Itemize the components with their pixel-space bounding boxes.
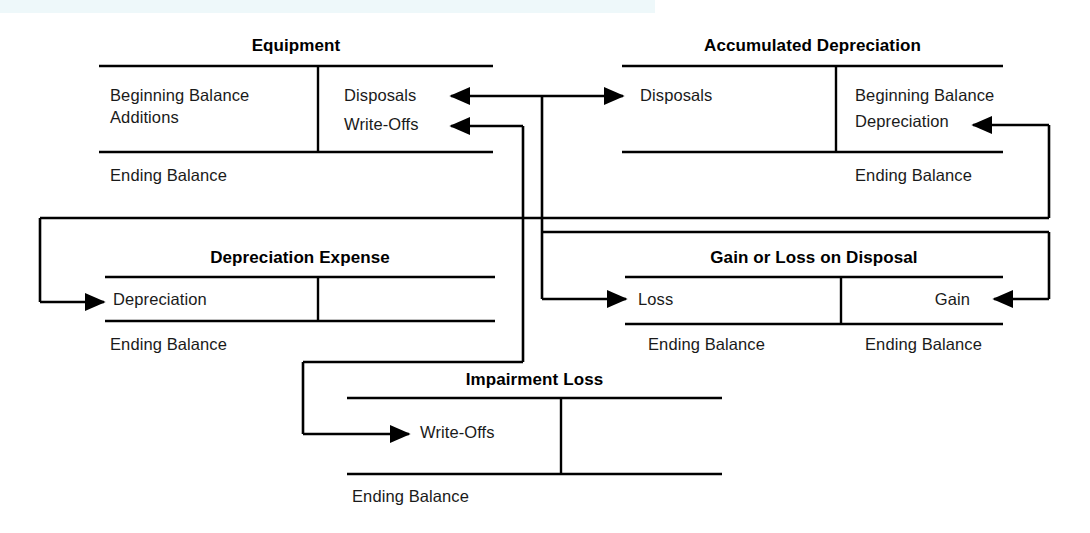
accumdep-footer-ending-balance: Ending Balance — [855, 166, 972, 185]
gain-or-loss-debit-loss: Loss — [638, 290, 673, 309]
gain-or-loss-footer-ending-balance-right: Ending Balance — [865, 335, 982, 354]
accumdep-credit-depreciation: Depreciation — [855, 112, 949, 131]
depreciation-expense-footer-ending-balance: Ending Balance — [110, 335, 227, 354]
account-title-depreciation-expense: Depreciation Expense — [105, 248, 495, 268]
impairment-loss-t-rules — [347, 398, 722, 474]
account-title-accumulated-depreciation: Accumulated Depreciation — [622, 36, 1003, 56]
equipment-debit-beginning-balance: Beginning Balance — [110, 86, 249, 105]
accumdep-debit-disposals: Disposals — [640, 86, 712, 105]
equipment-debit-additions: Additions — [110, 108, 179, 127]
diagram-canvas: Equipment Beginning Balance Additions Di… — [0, 0, 1090, 533]
connector-accumdep-depreciation-loop — [973, 125, 1049, 218]
accumdep-credit-beginning-balance: Beginning Balance — [855, 86, 994, 105]
account-title-equipment: Equipment — [99, 36, 493, 56]
gain-or-loss-footer-ending-balance-left: Ending Balance — [648, 335, 765, 354]
gain-or-loss-credit-gain: Gain — [860, 290, 970, 309]
account-title-impairment-loss: Impairment Loss — [347, 370, 722, 390]
impairment-loss-footer-ending-balance: Ending Balance — [352, 487, 469, 506]
equipment-footer-ending-balance: Ending Balance — [110, 166, 227, 185]
account-title-gain-or-loss-on-disposal: Gain or Loss on Disposal — [625, 248, 1003, 268]
accumulated-depreciation-t-rules — [622, 66, 1003, 152]
equipment-credit-write-offs: Write-Offs — [344, 115, 419, 134]
impairment-loss-debit-write-offs: Write-Offs — [420, 423, 495, 442]
equipment-credit-disposals: Disposals — [344, 86, 416, 105]
depreciation-expense-debit-depreciation: Depreciation — [113, 290, 207, 309]
